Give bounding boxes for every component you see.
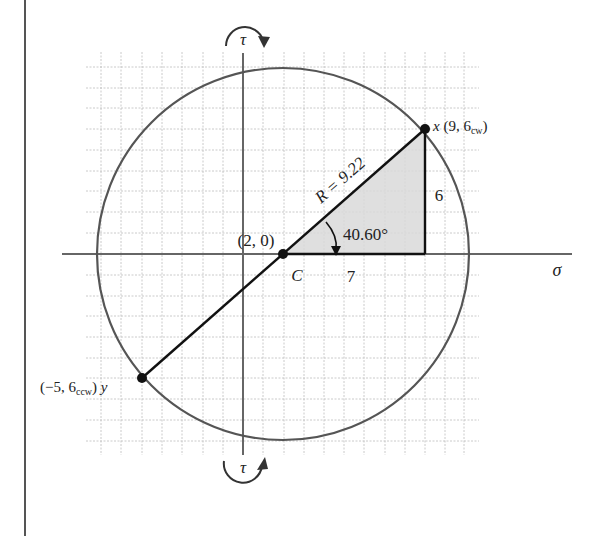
center-c-dot bbox=[278, 249, 288, 259]
point-y-dot bbox=[137, 373, 147, 383]
point-y-coord: (−5, 6 bbox=[40, 379, 76, 396]
point-y-label: (−5, 6ccw) y bbox=[40, 379, 108, 397]
point-x-dot bbox=[420, 124, 430, 134]
point-x-coord: (9, 6 bbox=[443, 118, 471, 135]
point-y-name: y bbox=[99, 379, 108, 395]
mohrs-circle-diagram: τ τ σ (2, 0) C 7 6 40.60° R = 9.22 x (9,… bbox=[0, 0, 593, 536]
point-x-sub: cw bbox=[471, 125, 483, 136]
tau-top-label: τ bbox=[240, 30, 247, 49]
point-y-sub: ccw bbox=[76, 386, 93, 397]
angle-label: 40.60° bbox=[343, 225, 388, 244]
point-x-label: x (9, 6cw) bbox=[432, 118, 488, 136]
point-x-name: x bbox=[432, 118, 440, 134]
point-y-close: ) bbox=[92, 379, 97, 396]
vertical-leg-label: 6 bbox=[435, 186, 444, 205]
center-coord-label: (2, 0) bbox=[238, 231, 275, 250]
point-x-close: ) bbox=[483, 118, 488, 135]
cw-arrowhead-icon bbox=[258, 36, 270, 48]
tau-bottom-label: τ bbox=[240, 458, 247, 477]
center-c-label: C bbox=[291, 266, 303, 285]
ccw-arrowhead-icon bbox=[257, 457, 268, 470]
horizontal-leg-label: 7 bbox=[347, 267, 356, 286]
sigma-label: σ bbox=[553, 260, 563, 280]
